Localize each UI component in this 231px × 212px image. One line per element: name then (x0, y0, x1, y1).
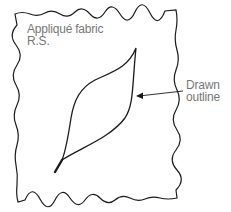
leaf-stem (55, 160, 62, 172)
fabric-label-line2: R.S. (27, 35, 103, 47)
arrow-head-icon (136, 93, 143, 100)
leaf-outline (62, 48, 136, 160)
callout-arrow-line (139, 91, 183, 96)
callout-label: Drawn outline (186, 79, 220, 103)
callout-label-line2: outline (186, 91, 220, 103)
fabric-label: Appliqué fabric R.S. (27, 23, 103, 47)
